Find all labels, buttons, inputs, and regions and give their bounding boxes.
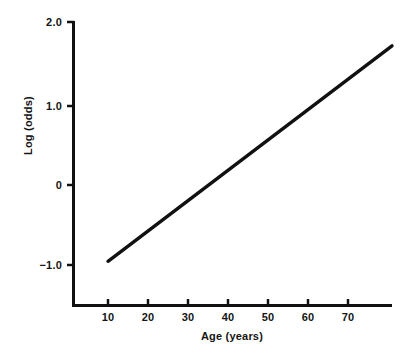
x-tick-label-40: 40 xyxy=(222,311,235,323)
x-tick-label-70: 70 xyxy=(342,311,355,323)
x-tick-label-30: 30 xyxy=(182,311,195,323)
y-tick-label-0: 0 xyxy=(20,179,62,191)
x-tick-label-10: 10 xyxy=(102,311,115,323)
x-axis-title: Age (years) xyxy=(201,330,263,342)
x-tick-label-60: 60 xyxy=(302,311,315,323)
data-series-line xyxy=(108,46,392,261)
x-tick-label-20: 20 xyxy=(142,311,155,323)
y-axis-title: Log (odds) xyxy=(22,96,34,155)
chart-plot-area xyxy=(0,0,411,356)
x-tick-label-50: 50 xyxy=(262,311,275,323)
chart-figure: 2.0 1.0 0 −1.0 10 20 30 40 50 60 70 Age … xyxy=(0,0,411,356)
y-tick-label-neg1: −1.0 xyxy=(20,259,62,271)
y-tick-label-2: 2.0 xyxy=(20,16,62,28)
